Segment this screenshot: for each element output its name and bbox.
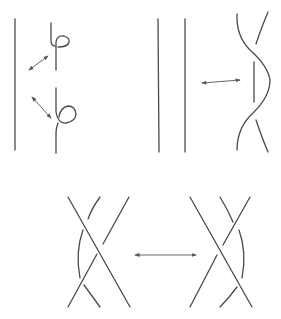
reidemeister-moves-diagram — [0, 0, 281, 319]
move-1-kink-lower — [56, 88, 76, 153]
move-1-arrow-upper — [29, 56, 48, 70]
move-1-arrow-lower — [32, 97, 51, 118]
move-1-panel — [15, 19, 76, 153]
move-2-arrow — [202, 80, 240, 83]
move-2-strand-a — [158, 19, 159, 152]
move-2-overlap — [237, 12, 270, 152]
move-3-right — [190, 197, 252, 307]
move-2-panel — [158, 12, 270, 152]
move-3-panel — [68, 197, 252, 307]
move-1-kink-upper — [51, 23, 69, 70]
move-3-left — [68, 197, 130, 307]
